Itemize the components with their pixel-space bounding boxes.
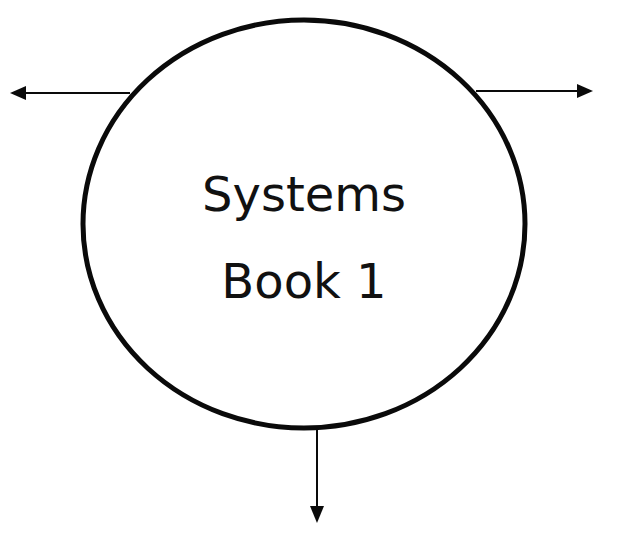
system-node-circle (83, 20, 525, 428)
arrowhead-down-icon (310, 506, 324, 523)
arrow-down (310, 428, 324, 523)
node-title-line-2: Book 1 (104, 257, 504, 305)
arrow-left (10, 86, 130, 100)
arrowhead-right-icon (577, 84, 593, 98)
diagram-canvas: Systems Book 1 (0, 0, 617, 536)
arrowhead-left-icon (10, 86, 26, 100)
arrow-right (476, 84, 593, 98)
node-title-line-1: Systems (104, 170, 504, 218)
